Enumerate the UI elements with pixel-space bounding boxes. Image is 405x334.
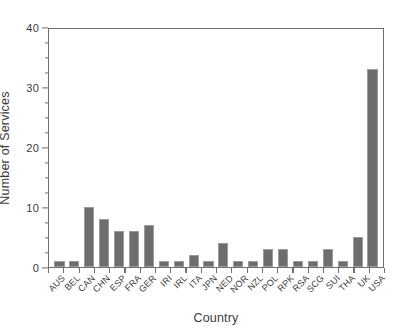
bars-container	[49, 29, 383, 267]
y-tick-label: 20	[26, 142, 39, 154]
bar-ita[interactable]	[189, 255, 199, 267]
bar-scg[interactable]	[308, 261, 318, 267]
bar-slot	[141, 29, 156, 267]
bar-aus[interactable]	[54, 261, 64, 267]
bar-slot	[276, 29, 291, 267]
bar-nzl[interactable]	[248, 261, 258, 267]
bar-slot	[335, 29, 350, 267]
bar-jpn[interactable]	[203, 261, 213, 267]
y-tick-label: 40	[26, 22, 39, 34]
bar-rsa[interactable]	[293, 261, 303, 267]
bar-slot	[127, 29, 142, 267]
bar-slot	[231, 29, 246, 267]
plot-area	[48, 28, 384, 268]
bar-fra[interactable]	[129, 231, 139, 267]
x-tick-label-iri: IRI	[158, 273, 174, 289]
x-tick-label-irl: IRL	[171, 273, 188, 290]
x-tick	[384, 268, 385, 273]
bar-slot	[52, 29, 67, 267]
bar-tha[interactable]	[338, 261, 348, 267]
x-tick-label-usa: USA	[367, 273, 388, 294]
bar-slot	[112, 29, 127, 267]
bar-nor[interactable]	[233, 261, 243, 267]
bar-chn[interactable]	[99, 219, 109, 267]
bar-slot	[171, 29, 186, 267]
y-tick-label: 30	[26, 82, 39, 94]
bar-slot	[186, 29, 201, 267]
bar-slot	[97, 29, 112, 267]
bar-bel[interactable]	[69, 261, 79, 267]
bar-can[interactable]	[84, 207, 94, 267]
x-axis-title: Country	[48, 311, 384, 325]
bar-pol[interactable]	[263, 249, 273, 267]
x-tick-label-tha: THA	[337, 273, 357, 293]
x-axis-tick-labels: AUSBELCANCHNESPFRAGERIRIIRLITAJPNNEDNORN…	[48, 273, 384, 313]
bar-slot	[350, 29, 365, 267]
bar-slot	[216, 29, 231, 267]
bar-ned[interactable]	[218, 243, 228, 267]
x-tick-label-ger: GER	[137, 273, 158, 294]
bar-slot	[320, 29, 335, 267]
bar-irl[interactable]	[174, 261, 184, 267]
bar-slot	[246, 29, 261, 267]
y-tick-label: 10	[26, 202, 39, 214]
y-axis-title: Number of Services	[0, 28, 12, 268]
bar-slot	[156, 29, 171, 267]
bar-chart-figure: 010203040 Number of Services AUSBELCANCH…	[0, 0, 405, 334]
bar-ger[interactable]	[144, 225, 154, 267]
bar-sui[interactable]	[323, 249, 333, 267]
bar-slot	[291, 29, 306, 267]
bar-usa[interactable]	[367, 69, 377, 267]
bar-uk[interactable]	[353, 237, 363, 267]
bar-rpk[interactable]	[278, 249, 288, 267]
bar-iri[interactable]	[159, 261, 169, 267]
bar-slot	[201, 29, 216, 267]
y-tick-label: 0	[33, 262, 39, 274]
bar-slot	[365, 29, 380, 267]
bar-esp[interactable]	[114, 231, 124, 267]
bar-slot	[305, 29, 320, 267]
bar-slot	[67, 29, 82, 267]
bar-slot	[261, 29, 276, 267]
bar-slot	[82, 29, 97, 267]
